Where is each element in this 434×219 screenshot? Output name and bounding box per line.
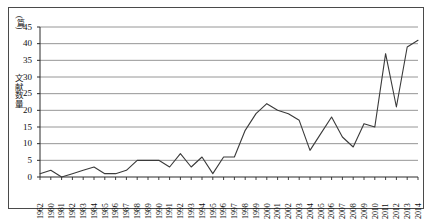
y-tick-label: 35 — [16, 56, 32, 65]
y-tick-label: 5 — [16, 156, 32, 165]
y-tick-label: 15 — [16, 123, 32, 132]
y-tick-label: 45 — [16, 23, 32, 32]
y-tick-label: 30 — [16, 73, 32, 82]
data-series-line — [40, 40, 418, 177]
y-tick-label: 25 — [16, 89, 32, 98]
gridline-group — [40, 27, 418, 160]
chart-container: (篇) 文献数量 1962198019811982198319841985198… — [0, 0, 434, 219]
y-tick-label: 0 — [16, 173, 32, 182]
y-tick-label: 10 — [16, 139, 32, 148]
y-tick-label: 20 — [16, 106, 32, 115]
y-tick-label: 40 — [16, 39, 32, 48]
line-chart-plot — [0, 0, 434, 219]
